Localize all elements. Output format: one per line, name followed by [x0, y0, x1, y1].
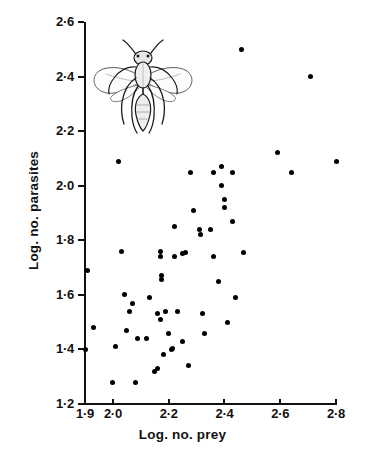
scatter-point [219, 164, 224, 169]
scatter-point [122, 292, 127, 297]
scatter-point [230, 170, 235, 175]
scatter-point [198, 232, 203, 237]
scatter-point [161, 352, 166, 357]
scatter-point [158, 317, 163, 322]
scatter-point [110, 380, 115, 385]
scatter-point [91, 325, 96, 330]
scatter-point [222, 197, 227, 202]
scatter-point [219, 183, 224, 188]
scatter-point [289, 170, 294, 175]
scatter-point [175, 309, 180, 314]
scatter-point [158, 254, 163, 259]
scatter-point [275, 150, 280, 155]
scatter-point [183, 250, 188, 255]
scatter-point [200, 311, 205, 316]
scatter-point [308, 74, 313, 79]
scatter-point [113, 344, 118, 349]
scatter-point [180, 339, 185, 344]
scatter-point [225, 320, 230, 325]
scatter-point [83, 347, 88, 352]
scatter-point [233, 295, 238, 300]
scatter-point [239, 47, 244, 52]
scatter-point [166, 331, 171, 336]
scatter-point [163, 309, 168, 314]
scatter-point [197, 227, 202, 232]
scatter-point [124, 328, 129, 333]
scatter-point [127, 309, 132, 314]
x-axis-title: Log. no. prey [0, 427, 365, 442]
scatter-point [158, 249, 163, 254]
scatter-point [216, 279, 221, 284]
scatter-point [241, 250, 246, 255]
scatter-point [170, 346, 175, 351]
y-axis-title: Log. no. parasites [26, 111, 41, 311]
scatter-point [159, 277, 164, 282]
scatter-point [147, 295, 152, 300]
scatter-points-layer [0, 0, 365, 461]
scatter-point [334, 159, 339, 164]
scatter-point [202, 331, 207, 336]
scatter-plot-figure: 1·21·41·61·82·02·22·42·6 1·92·02·22·42·6… [0, 0, 365, 461]
scatter-point [135, 336, 140, 341]
scatter-point [172, 224, 177, 229]
scatter-point [130, 301, 135, 306]
scatter-point [85, 268, 90, 273]
scatter-point [230, 219, 235, 224]
scatter-point [116, 159, 121, 164]
scatter-point [188, 170, 193, 175]
scatter-point [191, 208, 196, 213]
scatter-point [208, 227, 213, 232]
scatter-point [222, 205, 227, 210]
scatter-point [186, 363, 191, 368]
scatter-point [211, 170, 216, 175]
scatter-point [119, 249, 124, 254]
scatter-point [172, 254, 177, 259]
scatter-point [133, 380, 138, 385]
scatter-point [155, 366, 160, 371]
scatter-point [155, 311, 160, 316]
scatter-point [211, 254, 216, 259]
scatter-point [144, 336, 149, 341]
